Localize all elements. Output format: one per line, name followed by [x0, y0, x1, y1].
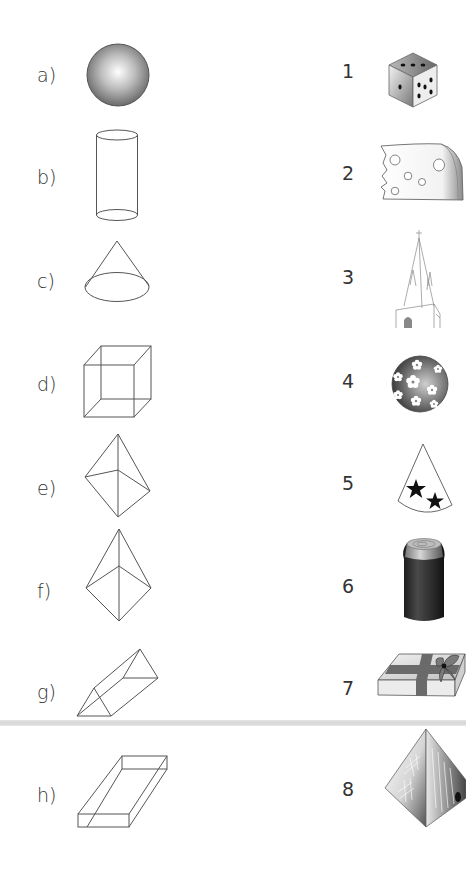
gift-box-icon — [377, 652, 466, 702]
flower-ball-icon — [391, 355, 449, 413]
shape-label-e: e) — [37, 477, 56, 499]
dice-icon — [387, 52, 439, 108]
shape-label-f: f) — [37, 580, 51, 602]
square-pyramid-shape-e — [84, 433, 152, 519]
cube-shape — [83, 345, 153, 419]
shape-label-a: a) — [37, 64, 56, 86]
object-label-3: 3 — [342, 266, 354, 288]
scan-separator-band — [0, 720, 466, 726]
object-label-4: 4 — [342, 370, 354, 392]
square-pyramid-shape-f — [85, 528, 153, 623]
shape-label-d: d) — [37, 373, 56, 395]
shape-label-g: g) — [37, 681, 56, 703]
shape-label-h: h) — [37, 784, 56, 806]
party-hat-icon — [396, 443, 454, 515]
object-label-1: 1 — [342, 60, 354, 82]
object-label-7: 7 — [342, 677, 354, 699]
pyramid-icon — [384, 728, 466, 828]
sphere-shape — [86, 43, 150, 107]
triangular-prism-shape — [75, 648, 161, 718]
object-label-8: 8 — [342, 778, 354, 800]
shape-label-c: c) — [37, 270, 55, 292]
object-label-6: 6 — [342, 575, 354, 597]
drink-can-icon — [398, 537, 448, 623]
cheese-icon — [379, 143, 466, 201]
object-label-2: 2 — [342, 162, 354, 184]
object-label-5: 5 — [342, 472, 354, 494]
cylinder-shape — [95, 129, 139, 222]
cone-shape — [84, 240, 152, 302]
church-spire-icon — [394, 230, 444, 328]
shape-label-b: b) — [37, 166, 56, 188]
rectangular-prism-shape — [77, 755, 169, 829]
